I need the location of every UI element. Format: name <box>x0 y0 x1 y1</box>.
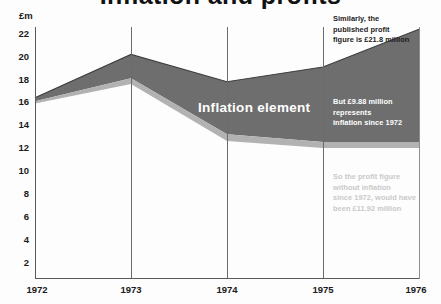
plot-area: 22 20 18 16 14 12 10 8 6 4 2 1972 1973 1… <box>35 27 420 279</box>
x-tick-1973: 1973 <box>120 284 141 295</box>
y-tick-2: 2 <box>24 256 29 267</box>
chart-root: Inflation and profits £m 22 20 18 16 14 … <box>0 0 441 304</box>
x-tick-1975: 1975 <box>312 284 333 295</box>
y-tick-10: 10 <box>18 165 29 176</box>
y-axis-unit-label: £m <box>19 10 33 21</box>
y-tick-4: 4 <box>24 233 29 244</box>
annotation-inflation-amount: But £9.88 million represents inflation s… <box>333 97 433 129</box>
right-axis-line <box>419 27 420 279</box>
gridline-1975 <box>323 27 324 278</box>
annotation-published-profit: Similarly, the published profit figure i… <box>333 14 437 46</box>
gridline-1973 <box>131 27 132 278</box>
y-tick-6: 6 <box>24 210 29 221</box>
y-tick-14: 14 <box>18 119 29 130</box>
y-tick-22: 22 <box>18 27 29 38</box>
y-tick-20: 20 <box>18 50 29 61</box>
y-tick-18: 18 <box>18 73 29 84</box>
x-axis-line <box>35 278 420 279</box>
inflation-element-label: Inflation element <box>198 100 310 115</box>
x-tick-1976: 1976 <box>405 284 426 295</box>
chart-title: Inflation and profits <box>0 0 441 10</box>
y-tick-16: 16 <box>18 96 29 107</box>
y-tick-8: 8 <box>24 188 29 199</box>
y-axis-line <box>35 27 36 279</box>
y-tick-12: 12 <box>18 142 29 153</box>
annotation-real-profit: So the profit figure without inflation s… <box>333 172 435 214</box>
gridline-1974 <box>227 27 228 278</box>
x-tick-1972: 1972 <box>26 284 47 295</box>
x-tick-1974: 1974 <box>216 284 237 295</box>
